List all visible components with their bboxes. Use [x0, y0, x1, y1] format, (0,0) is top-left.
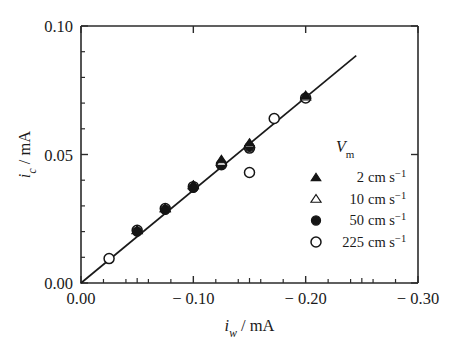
x-tick-label: − 0.30 — [397, 289, 439, 308]
y-tick-label: 0.10 — [44, 17, 73, 36]
legend-marker-open-circle — [311, 237, 321, 247]
legend-marker-open-triangle — [311, 195, 321, 203]
x-axis-label-unit: / mA — [237, 316, 275, 335]
legend-unit-exponent: −1 — [395, 189, 406, 200]
legend-marker-filled-triangle — [311, 173, 321, 180]
legend-unit: cm s−1 — [368, 168, 406, 186]
legend-item: 225cm s−1 — [311, 232, 406, 250]
y-axis-label: ic / mA — [15, 131, 38, 178]
x-tick-label: − 0.10 — [172, 289, 214, 308]
legend-item: 50cm s−1 — [311, 211, 406, 229]
legend-unit-exponent: −1 — [395, 211, 406, 222]
legend-value: 50 — [350, 212, 365, 228]
legend-unit: cm s−1 — [368, 189, 406, 207]
data-point-open-circle — [245, 167, 255, 177]
data-point-filled-triangle — [245, 139, 255, 146]
data-point-open-circle — [269, 114, 279, 124]
legend-marker-filled-circle — [311, 216, 320, 225]
y-tick-label: 0.05 — [44, 146, 73, 165]
legend-value: 225 — [342, 234, 364, 250]
data-point-filled-triangle — [217, 155, 227, 162]
x-axis-label: iw / mA — [225, 316, 275, 339]
legend-value: 2 — [357, 169, 364, 185]
data-point-open-circle — [104, 254, 114, 264]
y-tick-label: 0.00 — [44, 274, 73, 293]
legend-unit: cm s−1 — [368, 211, 406, 229]
legend-item: 10cm s−1 — [311, 189, 406, 207]
chart-canvas: 0.00− 0.10− 0.20− 0.30 0.000.050.10 Vm2c… — [0, 0, 455, 350]
chart-legend: Vm2cm s−110cm s−150cm s−1225cm s−1 — [311, 138, 406, 250]
legend-unit-exponent: −1 — [395, 168, 406, 179]
scatter-chart-figure: 0.00− 0.10− 0.20− 0.30 0.000.050.10 Vm2c… — [0, 0, 455, 350]
legend-title-subscript: m — [346, 148, 355, 160]
legend-value: 10 — [350, 191, 365, 207]
legend-title: Vm — [336, 138, 355, 160]
x-axis-tick-labels: 0.00− 0.10− 0.20− 0.30 — [67, 289, 440, 308]
legend-unit: cm s−1 — [368, 232, 406, 250]
legend-unit-exponent: −1 — [395, 232, 406, 243]
x-tick-label: − 0.20 — [285, 289, 327, 308]
legend-item: 2cm s−1 — [311, 168, 406, 186]
y-axis-label-unit: / mA — [15, 131, 34, 169]
y-axis-tick-labels: 0.000.050.10 — [44, 17, 73, 293]
